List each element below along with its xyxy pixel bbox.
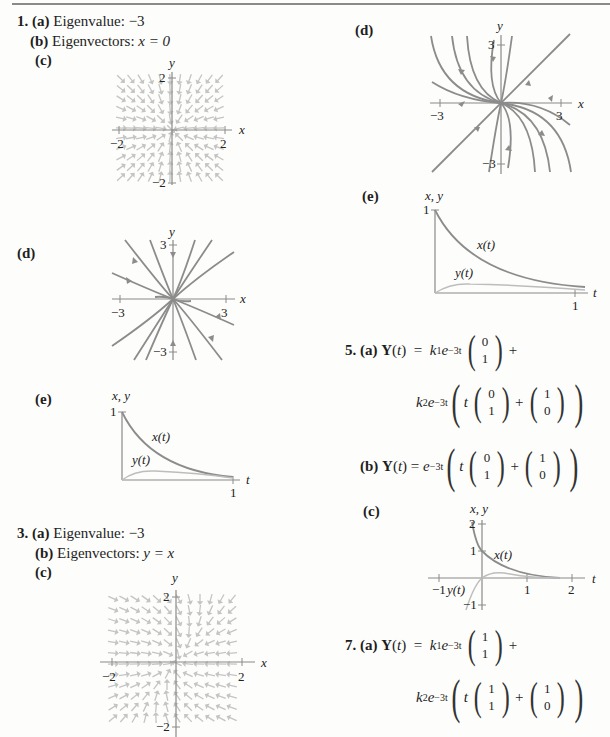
svg-text:−1: −1 bbox=[432, 582, 446, 597]
problem-7-part-a-line1: 7. (a) Y(t) = k1e−3t (11) + bbox=[345, 625, 517, 665]
svg-text:1: 1 bbox=[470, 543, 477, 558]
problem-7-part-a-line2: k2e−3t (t (11) + (10) ) bbox=[416, 673, 587, 721]
svg-text:x, y: x, y bbox=[469, 501, 488, 516]
svg-text:−1: −1 bbox=[463, 597, 477, 612]
svg-text:2: 2 bbox=[568, 582, 575, 597]
problem-5-time-plot: x, y t −1 1 2 2 1 −1 x(t) y(t) bbox=[0, 0, 610, 737]
svg-text:2: 2 bbox=[469, 516, 476, 531]
svg-text:t: t bbox=[592, 571, 596, 586]
svg-text:y(t): y(t) bbox=[445, 582, 465, 597]
svg-text:x(t): x(t) bbox=[493, 547, 512, 562]
svg-text:1: 1 bbox=[524, 582, 531, 597]
